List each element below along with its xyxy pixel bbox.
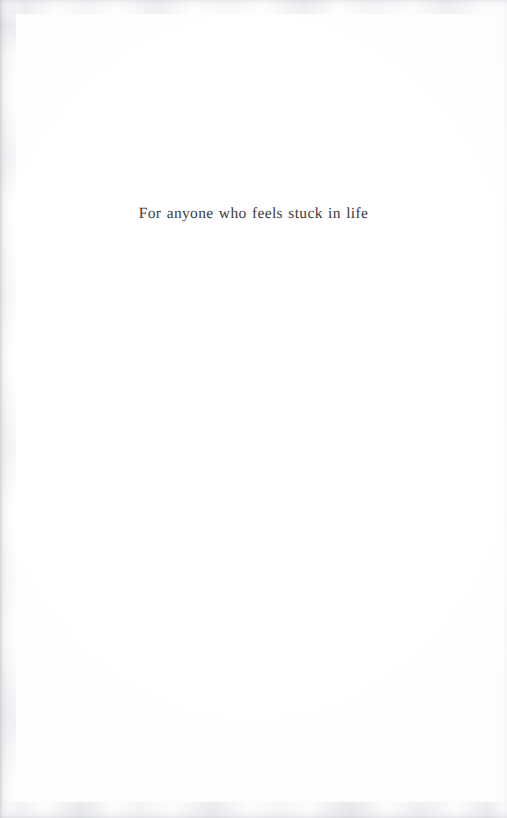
- right-edge-shadow-artifact: [497, 0, 507, 818]
- paper-texture: [0, 0, 507, 818]
- dedication-block: For anyone who feels stuck in life: [0, 204, 507, 224]
- bottom-edge-shadow-artifact: [0, 796, 507, 818]
- top-edge-mottle-artifact: [0, 0, 507, 14]
- dedication-text: For anyone who feels stuck in life: [139, 204, 368, 224]
- left-edge-streak-artifact: [0, 0, 16, 818]
- scanned-page: For anyone who feels stuck in life: [0, 0, 507, 818]
- bottom-edge-mottle-artifact: [0, 802, 507, 818]
- left-edge-shadow-artifact: [0, 0, 14, 818]
- top-edge-shadow-artifact: [0, 0, 507, 16]
